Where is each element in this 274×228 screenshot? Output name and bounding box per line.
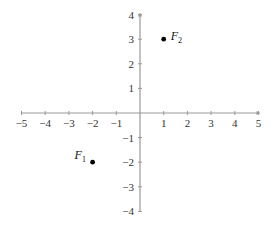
- x-tick-label: 5: [256, 117, 262, 129]
- y-tick-label: 2: [129, 58, 135, 70]
- x-tick-label: −1: [110, 117, 122, 129]
- plotted-points: F1F2: [74, 29, 182, 164]
- point-label: F1: [74, 148, 86, 164]
- coordinate-plane: −5−4−3−2−112345 4321−1−2−3−4 F1F2: [0, 0, 274, 228]
- y-tick-label: −2: [122, 156, 134, 168]
- point-label: F2: [170, 29, 182, 45]
- x-tick-label: 2: [185, 117, 191, 129]
- y-tick-label: 1: [129, 82, 135, 94]
- x-tick-label: 3: [208, 117, 214, 129]
- x-tick-label: −5: [16, 117, 28, 129]
- point-marker-icon: [90, 160, 95, 165]
- point-marker-icon: [161, 37, 166, 42]
- y-tick-label: −3: [122, 181, 134, 193]
- x-axis-ticks: −5−4−3−2−112345: [16, 111, 262, 129]
- y-tick-label: −1: [122, 132, 134, 144]
- axes: [22, 13, 261, 212]
- y-tick-label: 4: [129, 9, 135, 21]
- x-tick-label: −4: [39, 117, 51, 129]
- point-f1: F1: [74, 148, 95, 164]
- point-f2: F2: [161, 29, 182, 45]
- x-tick-label: −2: [87, 117, 99, 129]
- x-tick-label: 1: [161, 117, 167, 129]
- y-tick-label: −4: [122, 205, 134, 217]
- x-tick-label: 4: [232, 117, 238, 129]
- y-tick-label: 3: [129, 33, 135, 45]
- x-tick-label: −3: [63, 117, 75, 129]
